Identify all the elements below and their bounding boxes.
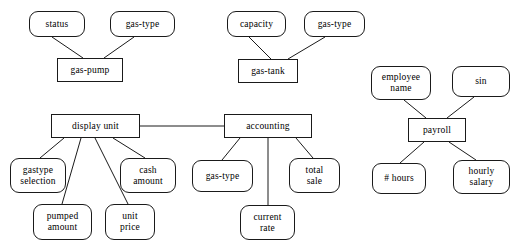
entity-node-gas-pump[interactable]: gas-pump (57, 58, 123, 82)
attribute-node-gastype-selection[interactable]: gastype selection (10, 158, 66, 193)
gas-type-to-gas-pump (104, 37, 134, 58)
payroll-to-hours (400, 142, 424, 163)
attribute-node-gas-type-tank[interactable]: gas-type (304, 11, 365, 37)
attribute-node-current-rate[interactable]: current rate (240, 205, 295, 240)
display-unit-to-gastype-selection (40, 138, 64, 158)
attribute-node-unit-price[interactable]: unit price (105, 204, 155, 240)
sin-to-payroll (447, 97, 474, 118)
attribute-node-pumped-amount[interactable]: pumped amount (33, 204, 92, 240)
accounting-to-total-sale (296, 138, 313, 158)
attribute-node-capacity[interactable]: capacity (227, 11, 286, 37)
attribute-node-total-sale[interactable]: total sale (289, 158, 340, 193)
entity-node-gas-tank[interactable]: gas-tank (238, 59, 298, 83)
display-unit-to-cash-amount (113, 138, 145, 158)
attribute-node-employee-name[interactable]: employee name (371, 66, 431, 100)
er-diagram-canvas: statusgas-typegas-pumpcapacitygas-typega… (0, 0, 518, 252)
entity-node-payroll[interactable]: payroll (408, 118, 466, 142)
payroll-to-hourly-salary (449, 142, 476, 160)
entity-node-display-unit[interactable]: display unit (51, 114, 140, 138)
attribute-node-status[interactable]: status (29, 11, 85, 37)
attribute-node-gas-type-accounting[interactable]: gas-type (192, 160, 253, 192)
attribute-node-hours[interactable]: # hours (372, 163, 426, 194)
attribute-node-cash-amount[interactable]: cash amount (120, 158, 176, 193)
employee-name-to-payroll (404, 100, 426, 118)
gas-type-to-gas-tank (288, 37, 325, 59)
attribute-node-gas-type-pump[interactable]: gas-type (110, 11, 175, 37)
status-to-gas-pump (52, 37, 83, 58)
capacity-to-gas-tank (249, 37, 271, 59)
attribute-node-hourly-salary[interactable]: hourly salary (453, 160, 510, 194)
accounting-to-gas-type (222, 138, 240, 160)
attribute-node-sin[interactable]: sin (452, 66, 510, 97)
entity-node-accounting[interactable]: accounting (224, 114, 312, 138)
